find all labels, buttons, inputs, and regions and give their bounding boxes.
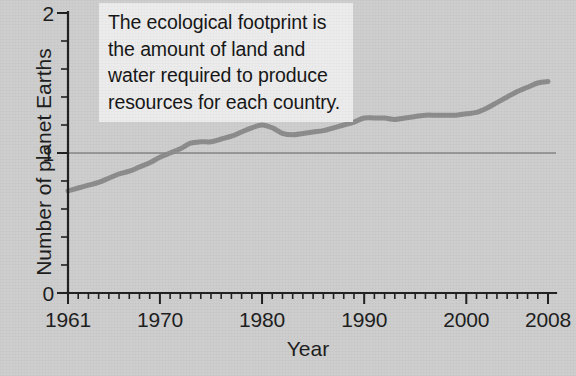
y-axis-ticks xyxy=(57,13,68,293)
y-axis-title: Number of planet Earths xyxy=(32,32,56,292)
x-axis-tick-label: 1961 xyxy=(45,309,91,330)
y-axis-tick-label: 2 xyxy=(28,3,54,24)
annotation-textbox: The ecological footprint is the amount o… xyxy=(99,3,353,122)
x-axis-ticks xyxy=(68,293,548,304)
x-axis-tick-label: 1980 xyxy=(239,309,285,330)
ecological-footprint-chart: 196119701980199020002008 012 Year Number… xyxy=(0,0,576,376)
x-axis-tick-label: 2000 xyxy=(443,309,489,330)
x-axis-tick-label: 2008 xyxy=(525,309,571,330)
x-axis-title: Year xyxy=(287,337,329,361)
x-axis-tick-label: 1990 xyxy=(341,309,387,330)
annotation-text: The ecological footprint is the amount o… xyxy=(108,9,345,115)
x-axis-tick-label: 1970 xyxy=(137,309,183,330)
